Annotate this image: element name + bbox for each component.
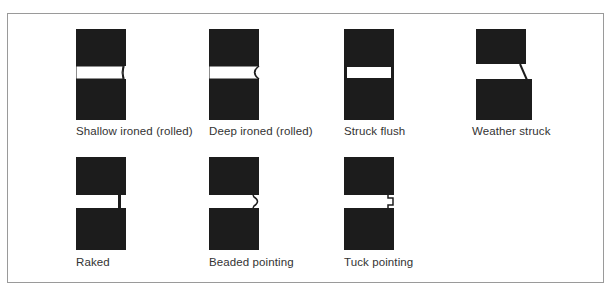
label-deep-ironed: Deep ironed (rolled) [209, 125, 313, 137]
joint-deep-ironed-diagram [209, 29, 265, 121]
label-tuck-pointing: Tuck pointing [344, 256, 413, 268]
joint-struck-flush-diagram [344, 29, 400, 121]
joint-beaded-pointing-diagram [209, 157, 267, 251]
joint-shallow-ironed-diagram [76, 29, 132, 121]
joint-raked-diagram [76, 157, 132, 251]
joint-tuck-pointing-diagram [344, 157, 402, 251]
joint-weather-struck-diagram [476, 29, 536, 121]
label-struck-flush: Struck flush [344, 125, 405, 137]
label-raked: Raked [76, 256, 110, 268]
label-weather-struck: Weather struck [472, 125, 551, 137]
label-shallow-ironed: Shallow ironed (rolled) [76, 125, 193, 137]
label-beaded-pointing: Beaded pointing [209, 256, 294, 268]
